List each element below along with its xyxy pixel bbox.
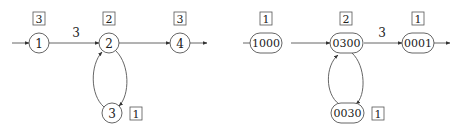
left-edge-1-to-2-label: 3 (72, 26, 80, 40)
right-node-0300-label: 0300 (333, 37, 361, 50)
left-node-3-label: 3 (108, 107, 116, 121)
left-node-1: 1 (29, 33, 49, 53)
svg-text:1: 1 (263, 13, 270, 26)
right-badge-0001: 1 (412, 12, 424, 26)
left-node-2: 2 (99, 33, 119, 53)
svg-text:1: 1 (133, 108, 140, 121)
right-node-1000: 1000 (250, 33, 282, 53)
left-badge-3: 1 (130, 107, 142, 121)
right-badge-1000: 1 (260, 12, 272, 26)
right-edge-0300-to-0001-label: 3 (378, 26, 386, 40)
svg-text:2: 2 (343, 13, 350, 26)
right-node-0300: 0300 (330, 33, 363, 53)
right-badge-0030: 1 (372, 107, 384, 121)
right-automaton: 3 1000 0300 0001 0030 1 2 (243, 12, 450, 123)
svg-text:3: 3 (177, 13, 184, 26)
left-badge-4: 3 (174, 12, 186, 26)
left-node-4: 4 (170, 33, 190, 53)
right-node-0001-label: 0001 (404, 37, 432, 50)
svg-text:2: 2 (106, 13, 113, 26)
left-edge-3-to-2 (93, 52, 104, 107)
right-edge-0300-to-0030 (352, 53, 363, 104)
left-node-4-label: 4 (176, 37, 184, 51)
left-badge-1: 3 (33, 12, 45, 26)
svg-text:1: 1 (415, 13, 422, 26)
left-edge-2-to-3 (116, 51, 127, 106)
diagram-canvas: 3 1 2 4 3 3 2 (0, 0, 460, 130)
svg-text:1: 1 (375, 108, 382, 121)
right-node-1000-label: 1000 (252, 37, 280, 50)
right-node-0030: 0030 (331, 103, 364, 123)
left-automaton: 3 1 2 4 3 3 2 (12, 12, 207, 123)
svg-text:3: 3 (36, 13, 43, 26)
left-node-2-label: 2 (105, 37, 113, 51)
left-node-3: 3 (102, 103, 122, 123)
right-node-0030-label: 0030 (334, 107, 362, 120)
left-node-1-label: 1 (35, 37, 43, 51)
right-node-0001: 0001 (402, 33, 434, 53)
left-badge-2: 2 (103, 12, 115, 26)
right-edge-0030-to-0300 (328, 55, 339, 104)
right-badge-0300: 2 (340, 12, 352, 26)
